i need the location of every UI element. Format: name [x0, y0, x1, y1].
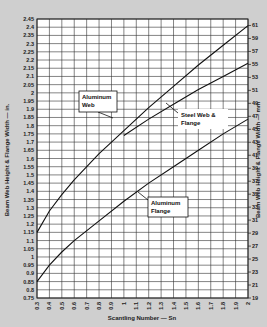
y-tick-label: 1.3 [26, 205, 34, 211]
x-tick-label: 0.9 [108, 302, 114, 310]
y-tick-label: 2.35 [23, 32, 34, 38]
y-tick-label: 1.15 [23, 229, 34, 235]
annotation-label: Aluminum [151, 200, 180, 206]
y-tick-label: 1.25 [23, 213, 34, 219]
y-tick-label: 2.25 [23, 49, 34, 55]
x-tick-label: 0.7 [84, 302, 90, 310]
annotation-label: Flange [151, 208, 171, 214]
y-tick-label: 1 [31, 254, 34, 260]
y2-tick-label: 27 [252, 243, 258, 249]
y-axis-ticks: 2.452.42.352.32.252.22.152.12.0521.951.9… [23, 16, 35, 301]
y-tick-label: 1.65 [23, 147, 34, 153]
y-tick-label: 1.2 [26, 221, 34, 227]
y-tick-label: 2.1 [26, 73, 34, 79]
y-tick-label: 0.8 [26, 287, 34, 293]
y-tick-label: 2.2 [26, 57, 34, 63]
x-tick-label: 0.3 [34, 302, 40, 310]
x-tick-label: 1.3 [158, 302, 164, 310]
x-tick-label: 0.5 [59, 302, 65, 310]
y-tick-label: 1.95 [23, 98, 34, 104]
x-axis-title: Scantling Number — Sn [108, 315, 177, 321]
x-tick-label: 1.2 [146, 302, 152, 310]
y-tick-label: 1.6 [26, 156, 34, 162]
y-tick-label: 1.1 [26, 238, 34, 244]
annotation-label: Aluminum [82, 94, 111, 100]
y-tick-label: 0.85 [23, 279, 34, 285]
y2-tick-label: 21 [252, 282, 258, 288]
y-tick-label: 2.4 [26, 24, 35, 30]
x-tick-label: 1.1 [133, 302, 139, 310]
y-tick-label: 0.75 [23, 295, 34, 301]
y2-tick-label: 51 [252, 87, 258, 93]
x-tick-label: 1.5 [183, 302, 189, 310]
x-tick-label: 1.4 [171, 301, 177, 310]
x-tick-label: 1.7 [208, 302, 214, 310]
y2-tick-label: 55 [252, 61, 258, 67]
y-tick-label: 1.45 [23, 180, 34, 186]
x-tick-label: 2 [245, 302, 251, 305]
y2-tick-label: 19 [252, 295, 258, 301]
y2-axis-title: Beam Web Height & Flange Width — mm [255, 102, 261, 218]
x-tick-label: 1.9 [233, 302, 239, 310]
y-tick-label: 1.05 [23, 246, 34, 252]
y-tick-label: 0.9 [26, 270, 34, 276]
y2-tick-label: 23 [252, 269, 258, 275]
y-tick-label: 2.15 [23, 65, 34, 71]
y2-tick-label: 59 [252, 35, 258, 41]
chart: 2.452.42.352.32.252.22.152.12.0521.951.9… [0, 0, 267, 327]
y-tick-label: 2 [31, 90, 34, 96]
y-tick-label: 2.3 [26, 41, 34, 47]
x-tick-label: 1.8 [220, 302, 226, 310]
y-tick-label: 1.55 [23, 164, 34, 170]
y-axis-title: Beam Web Height & Flange Width — in. [4, 103, 10, 216]
y2-tick-label: 53 [252, 74, 258, 80]
y2-tick-label: 61 [252, 22, 258, 28]
y-tick-label: 1.75 [23, 131, 34, 137]
y-tick-label: 1.85 [23, 114, 34, 120]
x-tick-label: 1.6 [195, 302, 201, 310]
x-tick-label: 0.4 [46, 301, 52, 310]
y-tick-label: 1.4 [26, 188, 35, 194]
annotation-label: Flange [181, 120, 201, 126]
y-tick-label: 0.95 [23, 262, 34, 268]
y-tick-label: 1.35 [23, 197, 34, 203]
annotation-label: Web [82, 102, 95, 108]
y-tick-label: 1.8 [26, 123, 34, 129]
y2-tick-label: 29 [252, 230, 258, 236]
y2-tick-label: 57 [252, 48, 258, 54]
y-tick-label: 1.9 [26, 106, 34, 112]
annotation-label: Steel Web & [181, 112, 216, 118]
y-tick-label: 1.5 [26, 172, 34, 178]
y-tick-label: 2.45 [23, 16, 34, 22]
x-axis-ticks: 0.30.40.50.60.70.80.911.11.21.31.41.51.6… [34, 301, 251, 310]
x-tick-label: 0.6 [71, 302, 77, 310]
x-tick-label: 0.8 [96, 302, 102, 310]
y2-tick-label: 25 [252, 256, 258, 262]
y-tick-label: 2.05 [23, 82, 34, 88]
x-tick-label: 1 [121, 302, 127, 305]
y-tick-label: 1.7 [26, 139, 34, 145]
